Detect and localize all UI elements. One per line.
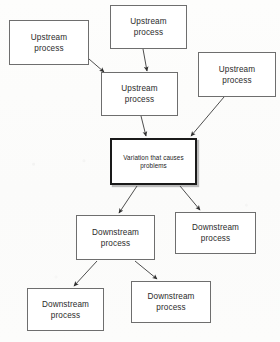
node-upstream-top-left: Upstream process [9, 20, 89, 65]
node-upstream-top-right: Upstream process [198, 52, 276, 97]
arrow-upstream-middle-to-variation [141, 116, 146, 136]
node-downstream-middle: Downstream process [76, 215, 155, 260]
node-label: Upstream process [217, 64, 257, 86]
arrow-top-right-to-variation [191, 97, 224, 136]
node-label: Upstream process [29, 32, 69, 54]
node-downstream-bottom-middle: Downstream process [131, 281, 211, 323]
node-upstream-top-middle: Upstream process [110, 5, 187, 49]
arrow-variation-to-downstream-middle [119, 186, 137, 213]
arrow-top-middle-to-upstream-middle [143, 49, 147, 71]
node-label: Downstream process [190, 222, 241, 244]
node-label: Variation that causes problems [121, 154, 185, 170]
node-downstream-right: Downstream process [175, 212, 256, 254]
node-label: Upstream process [119, 83, 159, 105]
node-label: Downstream process [146, 291, 197, 313]
node-upstream-middle: Upstream process [101, 72, 178, 116]
arrow-downstream-middle-to-bottom-left [74, 261, 97, 286]
arrow-downstream-middle-to-bottom-middle [135, 261, 157, 279]
node-label: Downstream process [90, 227, 141, 249]
arrow-top-left-to-upstream-middle [89, 59, 104, 72]
node-downstream-bottom-left: Downstream process [27, 288, 104, 331]
node-label: Upstream process [128, 16, 168, 38]
node-variation-center: Variation that causes problems [110, 138, 197, 185]
node-label: Downstream process [40, 299, 91, 321]
flow-diagram: Upstream processUpstream processUpstream… [0, 0, 280, 342]
arrow-variation-to-downstream-right [180, 186, 200, 210]
